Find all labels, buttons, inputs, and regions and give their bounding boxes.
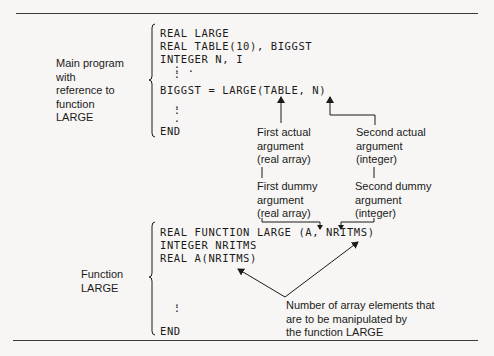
array-note-arrow-left-icon <box>238 269 285 297</box>
second-dummy-arrow-icon <box>341 218 374 229</box>
main-program-brace-icon <box>149 24 155 137</box>
first-dummy-arrow-icon <box>262 218 320 229</box>
second-actual-arrow-icon <box>330 97 375 125</box>
connector-overlay <box>0 0 494 356</box>
array-note-arrow-right-icon <box>285 242 358 297</box>
function-brace-icon <box>149 222 155 335</box>
